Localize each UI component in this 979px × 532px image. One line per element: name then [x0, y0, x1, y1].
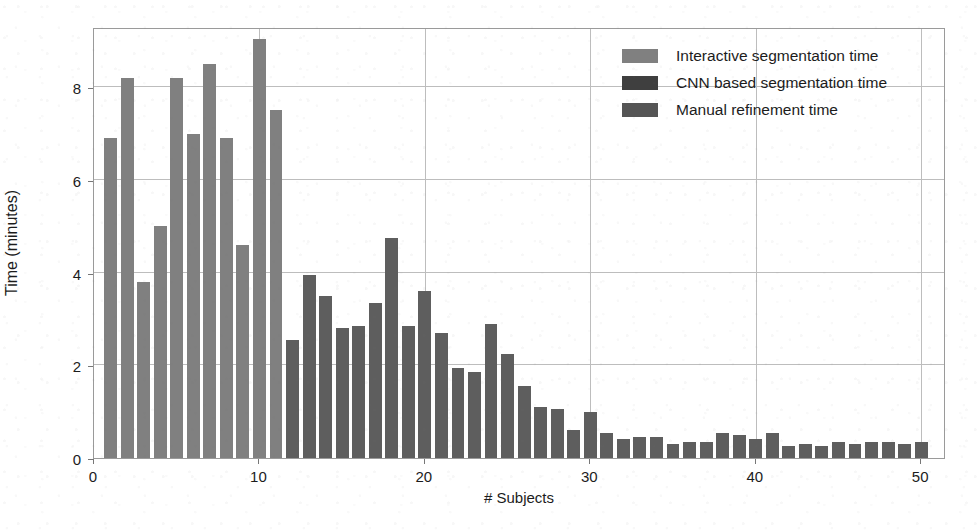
- legend-item-manual: Manual refinement time: [622, 96, 887, 123]
- bar: [468, 372, 481, 458]
- bar: [567, 430, 580, 458]
- bar: [898, 444, 911, 458]
- bar: [633, 437, 646, 458]
- bar: [650, 437, 663, 458]
- bar: [137, 282, 150, 458]
- bar: [286, 340, 299, 458]
- legend-label: Manual refinement time: [676, 101, 838, 119]
- legend-label: CNN based segmentation time: [676, 74, 887, 92]
- x-tick-label: 30: [581, 468, 598, 485]
- y-tick-label: 6: [73, 172, 81, 189]
- x-tick-label: 10: [250, 468, 267, 485]
- bar: [236, 245, 249, 458]
- legend-item-cnn: CNN based segmentation time: [622, 69, 887, 96]
- bar: [716, 433, 729, 458]
- bar: [749, 439, 762, 458]
- bar: [402, 326, 415, 458]
- bar: [865, 442, 878, 458]
- bar: [203, 64, 216, 458]
- y-tick-label: 8: [73, 80, 81, 97]
- bar: [104, 138, 117, 458]
- bar: [170, 78, 183, 458]
- bar: [369, 303, 382, 458]
- bar: [882, 442, 895, 458]
- bar: [418, 291, 431, 458]
- bar: [154, 226, 167, 458]
- legend-swatch-icon: [622, 49, 658, 63]
- bar: [915, 442, 928, 458]
- bar: [849, 444, 862, 458]
- bar: [319, 296, 332, 458]
- x-tick-label: 0: [89, 468, 97, 485]
- bar: [683, 442, 696, 458]
- bar: [782, 446, 795, 458]
- bar: [485, 324, 498, 458]
- bar: [336, 328, 349, 458]
- x-tick-mark: [755, 459, 756, 464]
- bar: [584, 412, 597, 458]
- bar: [452, 368, 465, 458]
- legend-swatch-icon: [622, 103, 658, 117]
- x-tick-mark: [93, 459, 94, 464]
- chart-legend: Interactive segmentation timeCNN based s…: [622, 42, 887, 123]
- legend-item-interactive: Interactive segmentation time: [622, 42, 887, 69]
- x-tick-mark: [424, 459, 425, 464]
- x-tick-label: 50: [912, 468, 929, 485]
- bar: [385, 238, 398, 458]
- y-tick-label: 4: [73, 265, 81, 282]
- x-tick-label: 20: [416, 468, 433, 485]
- bar: [121, 78, 134, 458]
- bar: [733, 435, 746, 458]
- legend-label: Interactive segmentation time: [676, 47, 878, 65]
- bar: [270, 110, 283, 458]
- bar: [815, 446, 828, 458]
- bar: [667, 444, 680, 458]
- bar: [253, 39, 266, 458]
- bar: [832, 442, 845, 458]
- x-tick-mark: [589, 459, 590, 464]
- bar: [435, 333, 448, 458]
- bar: [518, 386, 531, 458]
- bar: [303, 275, 316, 458]
- x-tick-mark: [258, 459, 259, 464]
- bar: [600, 433, 613, 458]
- bar: [551, 409, 564, 458]
- bar: [799, 444, 812, 458]
- y-tick-label: 2: [73, 358, 81, 375]
- x-axis-label: # Subjects: [484, 489, 554, 506]
- bar: [220, 138, 233, 458]
- bar: [501, 354, 514, 458]
- y-axis-label: Time (minutes): [3, 190, 21, 296]
- bar: [617, 439, 630, 458]
- bar: [700, 442, 713, 458]
- bar: [352, 326, 365, 458]
- x-tick-label: 40: [746, 468, 763, 485]
- y-tick-label: 0: [73, 451, 81, 468]
- bar: [766, 433, 779, 458]
- chart-figure: Time (minutes) # Subjects 02468 01020304…: [0, 0, 979, 532]
- bar: [534, 407, 547, 458]
- x-tick-mark: [920, 459, 921, 464]
- bar: [187, 134, 200, 458]
- legend-swatch-icon: [622, 76, 658, 90]
